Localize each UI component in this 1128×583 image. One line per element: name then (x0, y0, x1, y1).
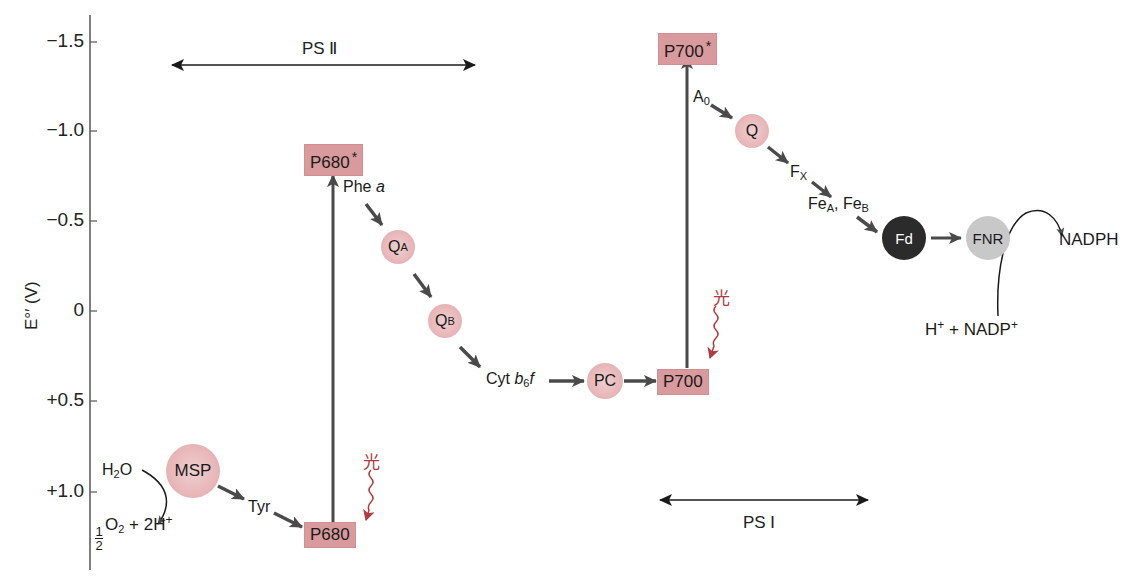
tick-label: −0.5 (4, 209, 84, 231)
arrow-qb-cyt (460, 347, 480, 367)
light-icon: 光 (363, 448, 380, 473)
nadp-reduction-arrow (998, 211, 1062, 316)
y-axis (90, 15, 97, 570)
oxygen-products-label: 12O2 + 2H+ (95, 513, 172, 552)
light-wave-p700 (710, 306, 718, 358)
msp-node: MSP (166, 444, 220, 498)
ferredoxin-node: Fd (882, 216, 926, 260)
p700-box: P700 (657, 369, 709, 395)
tick-label: +1.0 (4, 480, 84, 502)
tick-label: 0 (4, 299, 84, 321)
arrow-tyr-p680 (274, 513, 302, 527)
light-wave-p680 (366, 470, 373, 520)
p680-excited-box: P680* (304, 144, 363, 176)
qb-node: QB (428, 304, 462, 338)
arrow-qa-qb (414, 274, 431, 297)
tick-label: +0.5 (4, 389, 84, 411)
arrow-msp-tyr (218, 486, 244, 499)
pheophytin-label: Phe a (343, 178, 385, 196)
ps2-label: PS Ⅱ (302, 38, 337, 59)
tyr-label: Tyr (248, 498, 270, 516)
cyt-b6f-label: Cyt b6f (486, 370, 534, 389)
tick-label: −1.5 (4, 30, 84, 52)
pc-node: PC (587, 363, 623, 399)
nadph-label: NADPH (1059, 230, 1119, 250)
arrow-phe-qa (366, 204, 382, 225)
diagram-lines (0, 0, 1128, 583)
tick-label: −1.0 (4, 119, 84, 141)
fnr-node: FNR (966, 216, 1010, 260)
q-node: Q (735, 114, 769, 148)
a0-label: A0 (693, 88, 710, 107)
fe-label: FeA, FeB (808, 195, 869, 214)
p680-box: P680 (304, 522, 356, 548)
z-scheme-diagram: −1.5 −1.0 −0.5 0 +0.5 +1.0 E°′ (V) PS Ⅱ … (0, 0, 1128, 583)
qa-node: QA (381, 230, 415, 264)
p700-excited-box: P700* (658, 33, 717, 65)
arrow-fe-fd (857, 217, 877, 232)
nadp-reactants-label: H+ + NADP+ (925, 318, 1018, 340)
h2o-label: H2O (102, 461, 132, 480)
fx-label: FX (790, 163, 807, 182)
ps1-label: PS Ⅰ (743, 512, 775, 533)
arrow-q-fx (768, 147, 788, 163)
fraction: 12 (95, 525, 103, 552)
y-axis-title: E°′ (V) (22, 281, 42, 330)
arrow-a0-q (711, 105, 732, 118)
light-icon: 光 (713, 284, 730, 309)
